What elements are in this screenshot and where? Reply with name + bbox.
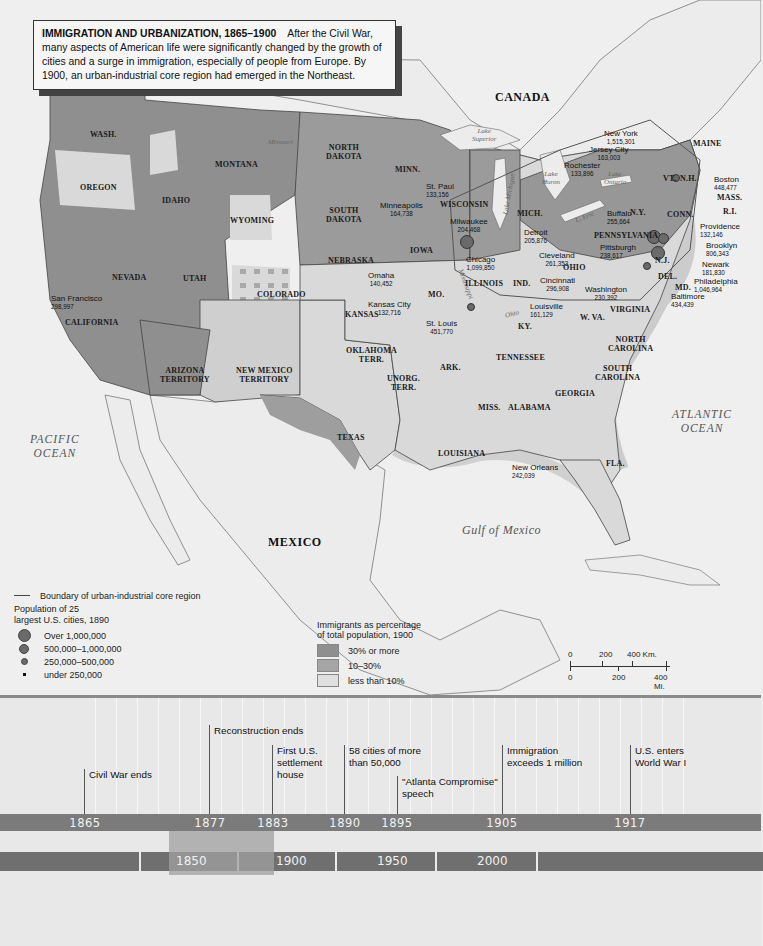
city-label-cleveland: Cleveland261,353 [539,252,575,268]
city-label-louisville: Louisville161,129 [530,303,563,319]
era-label: 1900 [276,854,307,868]
state-label: NORTH CAROLINA [608,335,653,353]
state-label: CONN. [667,210,694,219]
legend-imm-under-10: less than 10% [317,673,421,688]
timeline-divider [0,695,761,698]
city-dot-brooklyn [658,233,669,244]
period-highlight [169,831,274,875]
state-label: NEW MEXICO TERRITORY [236,366,293,384]
state-label: VIRGINIA [610,305,650,314]
small-circle-icon [21,658,28,665]
immigrant-legend-title: Immigrants as percentage of total popula… [317,620,421,640]
dot-icon [23,673,26,676]
state-label: UTAH [183,274,206,283]
city-label-brooklyn: Brooklyn806,343 [706,242,737,258]
state-label: IOWA [410,246,433,255]
timeline-gridline [158,698,159,814]
city-label-milwaukee: Milwaukee204,468 [450,218,488,234]
large-circle-icon [18,629,31,642]
state-label: FLA. [606,459,625,468]
city-label-newark: Newark181,830 [702,261,729,277]
city-label-baltimore: Baltimore434,439 [671,293,705,309]
state-label: WISCONSIN [440,200,488,209]
city-label-new-orleans: New Orleans242,039 [512,464,558,480]
timeline-gridline [326,698,327,814]
timeline-year: 1917 [614,816,645,830]
city-label-detroit: Detroit205,876 [523,229,548,245]
timeline-gridline [620,698,621,814]
population-legend-title: Population of 25 largest U.S. cities, 18… [14,604,201,626]
city-label-omaha: Omaha140,452 [368,272,394,288]
state-label: ARK. [440,363,461,372]
state-label: NEVADA [112,273,146,282]
state-label: COLORADO [257,290,306,299]
state-label: ALABAMA [508,403,551,412]
timeline-year: 1883 [257,816,288,830]
cuba [585,555,720,585]
state-label: WASH. [90,130,117,139]
country-label-mexico: MEXICO [268,535,322,550]
era-label: 1850 [176,854,207,868]
population-legend: Boundary of urban-industrial core region… [14,589,201,681]
legend-pop-over-1m: Over 1,000,000 [14,629,201,642]
state-label: MO. [428,290,444,299]
boundary-line-icon [14,595,30,596]
swatch-mid-icon [317,659,339,672]
caption-title: IMMIGRATION AND URBANIZATION, 1865–1900 [42,28,276,39]
timeline-event-immigration: Immigration exceeds 1 million [502,745,582,814]
city-label-jersey-city: Jersey City163,003 [589,146,629,162]
state-label: GEORGIA [555,389,595,398]
city-label-buffalo: Buffalo255,664 [607,210,632,226]
legend-pop-under-250k: under 250,000 [14,668,201,681]
immigrant-legend: Immigrants as percentage of total popula… [317,620,421,688]
city-label-san-francisco: San Francisco298,997 [51,295,102,311]
caption-box: IMMIGRATION AND URBANIZATION, 1865–1900 … [33,20,396,90]
timeline-gridline [599,698,600,814]
city-label-minneapolis: Minneapolis164,738 [380,202,423,218]
legend-imm-30-plus: 30% or more [317,643,421,658]
timeline-year: 1905 [486,816,517,830]
state-label: WYOMING [230,216,274,225]
timeline-gridline [179,698,180,814]
state-label: MASS. [717,193,742,202]
legend-pop-250k-500k: 250,000–500,000 [14,655,201,668]
state-label: OREGON [80,183,117,192]
city-dot-baltimore [643,262,651,270]
city-label-chicago: Chicago1,099,850 [465,256,496,272]
medium-circle-icon [19,644,29,654]
timeline-year: 1877 [194,816,225,830]
state-label: W. VA. [580,313,605,322]
state-label: CALIFORNIA [65,318,119,327]
state-label: VT. [663,174,676,183]
state-label: TEXAS [337,433,365,442]
swatch-high-icon [317,644,339,657]
florida [560,460,630,545]
ocean-label-atlantic: ATLANTIC OCEAN [672,407,732,435]
state-label: NEBRASKA [328,256,374,265]
city-dot-chicago [460,235,474,249]
city-label-boston: Boston448,477 [714,176,739,192]
timeline-event-settlement-house: First U.S. settlement house [272,745,322,814]
era-label: 2000 [477,854,508,868]
timeline-year: 1895 [381,816,412,830]
timeline-event-atlanta-compromise: "Atlanta Compromise" speech [397,776,498,814]
state-label: MICH. [517,209,543,218]
state-label: R.I. [723,207,737,216]
city-dot-st-louis [467,303,475,311]
state-label: NORTH DAKOTA [326,143,362,161]
state-label: PENNSYLVANIA [594,231,658,240]
timeline-year: 1890 [329,816,360,830]
swatch-low-icon [317,674,339,687]
state-label: DEL. [658,272,677,281]
state-label: SOUTH DAKOTA [326,206,362,224]
state-label: MINN. [395,165,420,174]
city-label-kansas-city: Kansas City132,716 [368,301,411,317]
city-label-st-paul: St. Paul133,156 [426,183,454,199]
timeline-gridline [200,698,201,814]
state-label: N.J. [655,256,670,265]
timeline: 1865 1877 1883 1890 1895 1905 1917 Civil… [0,695,761,946]
state-label: MISS. [478,403,501,412]
state-label: TENNESSEE [496,353,545,362]
legend-boundary: Boundary of urban-industrial core region [14,589,201,602]
state-label: N.Y. [630,208,646,217]
